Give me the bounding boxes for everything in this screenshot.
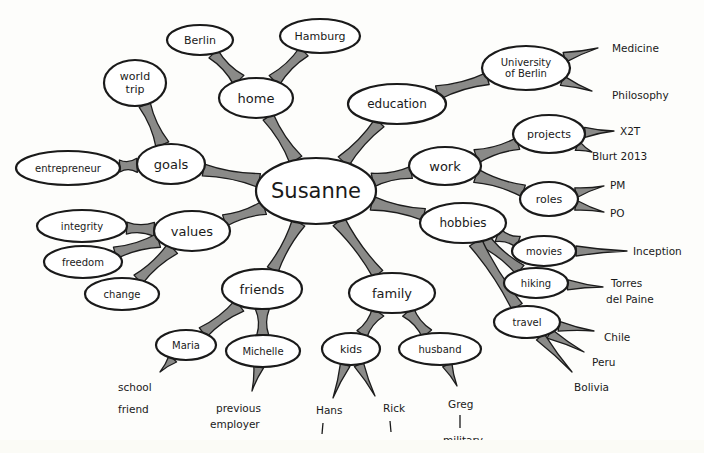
leaf-label-blurt-2013: Blurt 2013: [592, 150, 647, 162]
leaf-label-school: school: [118, 381, 152, 393]
node-label: husband: [418, 344, 461, 355]
node-travel[interactable]: travel: [494, 306, 560, 338]
node-label: home: [238, 91, 275, 106]
node-label: change: [104, 289, 141, 300]
leaf-label-inception: Inception: [633, 245, 682, 257]
leaf-label-friend: friend: [118, 403, 149, 415]
node-label: movies: [526, 246, 562, 257]
node-goals[interactable]: goals: [137, 144, 205, 184]
branch-susanne-values: [223, 201, 267, 226]
node-label: work: [429, 159, 461, 174]
node-berlin[interactable]: Berlin: [167, 25, 233, 55]
leaf-connector-roles: [575, 200, 604, 212]
node-label: friends: [240, 282, 285, 297]
leaf-connector-michelle: [252, 366, 263, 391]
branch-susanne-friends: [267, 219, 304, 272]
leaf-connector-kids: [354, 362, 375, 396]
node-label: Michelle: [242, 346, 283, 357]
branch-susanne-home: [263, 114, 302, 164]
node-layer: SusannehomeBerlinHamburgeducationUnivers…: [16, 19, 585, 367]
node-label: kids: [340, 343, 362, 356]
node-label: University: [501, 57, 552, 68]
leaf-label-peru: Peru: [592, 356, 615, 368]
node-integrity[interactable]: integrity: [37, 210, 127, 242]
leaf-connector-hiking: [567, 280, 603, 290]
branch-work-projects: [474, 138, 520, 163]
branch-friends-michelle: [255, 309, 269, 335]
node-label: education: [367, 97, 427, 111]
node-label: integrity: [61, 221, 103, 232]
node-label: projects: [527, 128, 571, 141]
leaf-label-employer: employer: [210, 418, 260, 430]
node-label: hobbies: [439, 216, 486, 230]
tick-mark-layer: [322, 415, 460, 442]
node-education[interactable]: education: [348, 84, 446, 124]
leaf-label-hans: Hans: [316, 404, 342, 416]
node-entre[interactable]: entrepreneur: [16, 151, 120, 185]
node-work[interactable]: work: [409, 147, 481, 185]
node-michelle[interactable]: Michelle: [226, 335, 300, 367]
branch-goals-entre: [119, 158, 137, 172]
branch-susanne-family: [333, 217, 383, 277]
leaf-label-po: PO: [610, 207, 625, 219]
node-label: Susanne: [271, 179, 361, 203]
node-label: trip: [126, 83, 145, 96]
node-family[interactable]: family: [349, 273, 435, 313]
leaf-connector-roles: [575, 186, 604, 198]
leaf-label-x2t: X2T: [620, 125, 641, 137]
branch-values-freedom: [113, 234, 160, 259]
tick-mark: [390, 421, 391, 432]
node-label: goals: [154, 157, 189, 172]
node-husband[interactable]: husband: [399, 333, 481, 365]
tick-mark: [322, 423, 323, 434]
node-change[interactable]: change: [85, 278, 159, 310]
leaf-label-del-paine: del Paine: [606, 293, 654, 305]
node-label: family: [372, 286, 412, 301]
node-kids[interactable]: kids: [322, 333, 380, 365]
leaf-label-rick: Rick: [383, 402, 406, 414]
node-label: entrepreneur: [35, 163, 102, 174]
leaf-connector-projects: [585, 127, 614, 137]
leaf-label-medicine: Medicine: [612, 42, 659, 54]
bottom-margin: [0, 440, 704, 453]
node-label: values: [171, 224, 214, 239]
node-values[interactable]: values: [154, 211, 230, 251]
node-hamburg[interactable]: Hamburg: [280, 19, 360, 53]
node-label: roles: [536, 193, 563, 206]
leaf-connector-husband: [443, 363, 457, 386]
branch-goals-worldtrip: [139, 102, 169, 147]
leaf-connector-kids: [333, 363, 350, 398]
branch-values-integrity: [126, 222, 154, 236]
node-maria[interactable]: Maria: [156, 330, 216, 360]
leaf-connector-movies: [576, 246, 627, 256]
node-freedom[interactable]: freedom: [44, 246, 122, 278]
leaf-connector-travel: [558, 321, 594, 331]
branch-susanne-work: [371, 167, 412, 187]
branch-susanne-education: [338, 119, 384, 167]
node-label: hiking: [521, 278, 551, 289]
leaf-label-pm: PM: [610, 179, 625, 191]
node-hiking[interactable]: hiking: [504, 268, 568, 298]
branch-work-roles: [474, 169, 526, 197]
node-label: Maria: [172, 340, 200, 351]
leaf-label-previous: previous: [216, 402, 261, 414]
branch-education-uni: [436, 73, 490, 100]
node-movies[interactable]: movies: [512, 236, 576, 266]
node-hobbies[interactable]: hobbies: [420, 203, 506, 243]
node-label: travel: [512, 317, 541, 328]
branch-susanne-hobbies: [370, 196, 425, 220]
leaf-label-greg: Greg: [448, 398, 473, 410]
node-label: Berlin: [184, 34, 216, 47]
node-worldtrip[interactable]: worldtrip: [104, 60, 166, 106]
node-susanne[interactable]: Susanne: [256, 158, 376, 224]
node-roles[interactable]: roles: [520, 182, 578, 216]
node-friends[interactable]: friends: [222, 269, 302, 309]
branch-susanne-goals: [202, 164, 260, 187]
leaf-label-torres: Torres: [610, 277, 642, 289]
node-uni[interactable]: Universityof Berlin: [482, 46, 570, 90]
node-label: of Berlin: [505, 68, 547, 79]
leaf-label-chile: Chile: [604, 331, 630, 343]
leaf-label-philosophy: Philosophy: [612, 89, 669, 101]
node-home[interactable]: home: [219, 78, 293, 118]
node-projects[interactable]: projects: [513, 115, 585, 153]
